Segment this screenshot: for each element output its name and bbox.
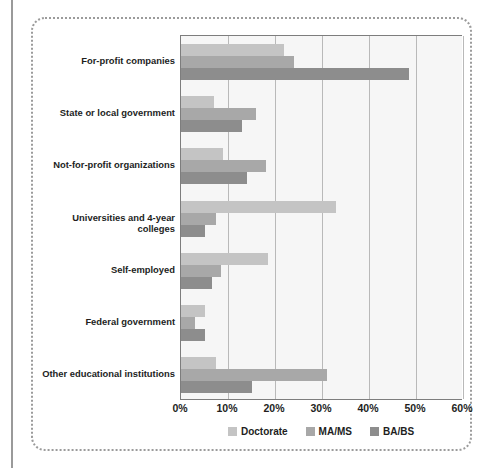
category-label: Self-employed [35,264,175,275]
x-tick-label: 50% [404,402,425,414]
gridline-20% [275,36,276,399]
bar [181,317,195,329]
gridline-40% [369,36,370,399]
bar [181,96,214,108]
category-label: For-profit companies [35,55,175,66]
bar [181,277,212,289]
legend-swatch-icon [306,427,315,436]
legend-item: Doctorate [228,426,288,437]
bar [181,44,284,56]
category-axis-labels: For-profit companiesState or local gover… [35,35,175,400]
horizontal-bar-chart: For-profit companiesState or local gover… [0,0,504,468]
gridline-30% [322,36,323,399]
bar [181,253,268,265]
bar [181,225,205,237]
bar [181,369,327,381]
bar [181,160,266,172]
bar [181,56,294,68]
category-label: Federal government [35,316,175,327]
legend-label: Doctorate [241,426,288,437]
legend-label: MA/MS [319,426,352,437]
legend-swatch-icon [370,427,379,436]
bar [181,381,252,393]
legend-swatch-icon [228,427,237,436]
x-tick-label: 30% [310,402,331,414]
x-tick-label: 60% [451,402,472,414]
x-tick-label: 40% [357,402,378,414]
bar [181,265,221,277]
category-label: Universities and 4-year colleges [35,212,175,234]
x-axis-tick-labels: 0%10%20%30%40%50%60% [180,402,462,420]
legend-label: BA/BS [383,426,414,437]
category-label: Not-for-profit organizations [35,159,175,170]
bar [181,201,336,213]
x-tick-label: 10% [216,402,237,414]
category-label: State or local government [35,107,175,118]
x-tick-label: 20% [263,402,284,414]
bar [181,357,216,369]
bar [181,172,247,184]
bar [181,120,242,132]
bar [181,213,216,225]
gridline-60% [463,36,464,399]
bar [181,305,205,317]
x-tick-label: 0% [172,402,187,414]
legend-item: MA/MS [306,426,352,437]
plot-area [180,35,462,400]
gridline-10% [228,36,229,399]
bar [181,329,205,341]
bar [181,108,256,120]
gridline-50% [416,36,417,399]
category-label: Other educational institutions [35,368,175,379]
bar [181,68,409,80]
legend-item: BA/BS [370,426,414,437]
chart-legend: DoctorateMA/MSBA/BS [180,423,462,439]
bar [181,148,223,160]
